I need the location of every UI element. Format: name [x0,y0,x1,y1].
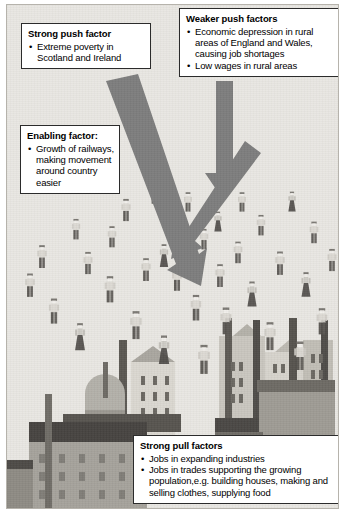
crowd-figure [140,258,151,285]
crowd-figure [274,251,285,279]
callout-weaker-push-factors: Weaker push factors • Economic depressio… [179,8,339,77]
callout-enabling-factor: Enabling factor: • Growth of railways, m… [20,125,120,194]
crowd-figure [158,244,169,271]
crowd-figure [48,298,60,328]
strong-push-arrow [106,74,207,286]
crowd-figure [171,266,183,295]
list-item: • Growth of railways, making movement ar… [27,143,114,189]
crowd-figure [246,281,258,311]
list-item: • Economic depression in rural areas of … [186,26,337,60]
list-item: • Extreme poverty in Scotland and Irelan… [28,41,145,64]
list-item: • Jobs in expanding industries [140,453,339,464]
callout-weaker-push-list: • Economic depression in rural areas of … [186,26,337,72]
crowd-figure [300,272,312,301]
callout-strong-pull-factors: Strong pull factors • Jobs in expanding … [133,435,339,504]
crowd-figure [149,185,158,207]
bullet-glyph: • [187,26,190,37]
callout-strong-pull-list: • Jobs in expanding industries • Jobs in… [140,453,339,499]
weaker-push-arrow [205,81,244,201]
callout-strong-push-list: • Extreme poverty in Scotland and Irelan… [28,41,145,64]
crowd-figure [24,273,35,301]
scene-panel: Strong push factor • Extreme poverty in … [6,4,339,509]
crowd-figure [213,211,223,235]
crowd-figure [256,215,266,239]
crowd-figure [214,264,225,291]
crowd-figure [263,322,277,355]
list-item-text: Growth of railways, making movement arou… [36,143,114,188]
crowd-figure [183,192,193,215]
crowd-figure [83,251,94,278]
list-item-text: Jobs in expanding industries [149,453,265,464]
bullet-glyph: • [28,143,31,154]
bullet-glyph: • [141,453,144,464]
callout-strong-push-factor: Strong push factor • Extreme poverty in … [21,23,151,69]
bullet-glyph: • [29,41,32,52]
crowd-figure [287,191,297,215]
callout-strong-push-heading: Strong push factor [28,28,145,40]
crowd-figure [199,229,209,253]
crowd-figure [104,276,117,307]
crowd-figure [293,341,307,375]
crowd-figure [327,248,338,275]
crowd-figure [167,211,177,235]
callout-strong-pull-heading: Strong pull factors [140,440,339,452]
list-item-text: Jobs in trades supporting the growing po… [149,464,328,498]
bullet-glyph: • [187,60,190,71]
crowd-figure [197,344,211,379]
crowd-figure [71,219,81,243]
crowd-figure [233,241,244,267]
crowd-figure [107,226,117,251]
callout-enabling-heading: Enabling factor: [27,130,114,142]
list-item-text: Low wages in rural areas [195,60,297,71]
callout-enabling-list: • Growth of railways, making movement ar… [27,143,114,189]
diagram-root: Strong push factor • Extreme poverty in … [0,0,343,512]
callout-weaker-push-heading: Weaker push factors [186,13,337,25]
crowd-figure [237,192,247,215]
list-item-text: Extreme poverty in Scotland and Ireland [37,41,121,63]
crowd-figure [36,245,47,272]
bullet-glyph: • [141,464,144,475]
list-item: • Low wages in rural areas [186,60,337,71]
crowd-figure [316,308,329,339]
list-item: • Jobs in trades supporting the growing … [140,464,339,498]
crowd-figure [309,221,320,247]
crowd-figure [129,311,143,344]
crowd-figure [157,335,171,369]
crowd-figure [73,323,86,355]
list-item-text: Economic depression in rural areas of En… [195,26,313,60]
crowd-figure [121,198,132,225]
crowd-figure [190,294,203,325]
crowd-figure [219,307,232,339]
